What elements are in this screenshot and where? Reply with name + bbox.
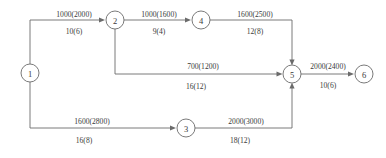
node-5-label: 5: [290, 70, 294, 80]
edge-2-4-cost-label: 9(4): [153, 27, 166, 36]
edge-1-2-cost-label: 10(6): [66, 27, 82, 36]
node-6-label: 6: [362, 70, 366, 80]
arrowhead-into-node-5-from-2: [277, 71, 283, 76]
node-2-label: 2: [113, 16, 117, 26]
edge-4-5-capacity-label: 1600(2500): [237, 10, 272, 19]
network-graphics: 1 2 3 4 5 6: [0, 0, 386, 158]
edges-group: [30, 20, 350, 128]
edge-3-5-capacity-label: 2000(3000): [228, 117, 263, 126]
edge-5-6-cost-label: 10(6): [320, 81, 336, 90]
edge-5-6-capacity-label: 2000(2400): [310, 62, 345, 71]
node-2[interactable]: 2: [106, 11, 124, 29]
node-3[interactable]: 3: [177, 119, 195, 137]
arrowhead-into-node-4: [185, 17, 191, 22]
edge-1-3-cost-label: 16(8): [76, 136, 92, 145]
node-1[interactable]: 1: [21, 64, 39, 82]
arrowhead-into-node-6: [348, 71, 354, 76]
edge-1-2-capacity-label: 1000(2000): [56, 10, 91, 19]
arrowhead-into-node-3: [170, 125, 176, 130]
edge-4-5-cost-label: 12(8): [247, 27, 263, 36]
node-6[interactable]: 6: [355, 65, 373, 83]
node-5[interactable]: 5: [283, 65, 301, 83]
edge-2-5-cost-label: 16(12): [186, 82, 206, 91]
node-3-label: 3: [184, 124, 188, 134]
node-1-label: 1: [28, 69, 32, 79]
edge-1-3-capacity-label: 1600(2800): [74, 117, 109, 126]
edge-2-4-capacity-label: 1000(1600): [141, 10, 176, 19]
node-4[interactable]: 4: [192, 11, 210, 29]
network-diagram: 1 2 3 4 5 6 1000(2000): [0, 0, 386, 158]
edge-2-5-capacity-label: 700(1200): [187, 62, 219, 71]
arrowhead-into-node-2: [99, 17, 105, 22]
edge-3-5-cost-label: 18(12): [230, 136, 250, 145]
